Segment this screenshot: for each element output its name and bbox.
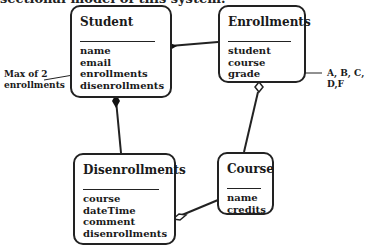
class-course: Course name credits: [217, 152, 274, 215]
attribute: disenrollments: [83, 228, 166, 240]
attribute: grade: [228, 68, 296, 80]
note-line: enrollments: [4, 80, 65, 91]
attribute: comment: [83, 216, 166, 228]
attribute: name: [227, 192, 264, 204]
divider: [83, 189, 159, 190]
attribute: credits: [227, 204, 264, 216]
class-disenrollments: Disenrollments course dateTime comment d…: [73, 153, 176, 245]
attribute: course: [228, 57, 296, 69]
attribute: enrollments: [80, 68, 162, 80]
disenrollments-course-link: [182, 200, 218, 215]
attribute: disenrollments: [80, 80, 162, 92]
class-title: Disenrollments: [83, 163, 166, 177]
student-enrollments-link: [170, 42, 218, 46]
note-line: Max of 2: [4, 69, 65, 80]
student-disenrollments-link: [116, 100, 121, 153]
class-enrollments: Enrollments student course grade: [218, 5, 306, 83]
divider: [227, 188, 261, 189]
enrollments-course-link: [244, 92, 258, 152]
attribute: name: [80, 45, 162, 57]
attribute: dateTime: [83, 205, 166, 217]
class-student: Student name email enrollments disenroll…: [70, 5, 172, 98]
hollow-diamond-icon: [255, 82, 263, 92]
note-max-enrollments: Max of 2 enrollments: [4, 69, 65, 91]
connector-layer: [0, 0, 383, 248]
attribute: student: [228, 45, 296, 57]
attribute: course: [83, 193, 166, 205]
class-title: Student: [80, 15, 162, 29]
class-title: Enrollments: [228, 15, 296, 29]
note-grade-values: A, B, C, D,F: [327, 68, 383, 90]
divider: [228, 41, 291, 42]
attribute: email: [80, 57, 162, 69]
divider: [80, 41, 155, 42]
class-title: Course: [227, 162, 264, 176]
